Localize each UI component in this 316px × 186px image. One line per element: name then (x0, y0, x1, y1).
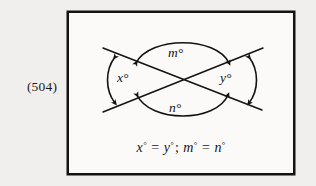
eq-x-symbol: x (137, 140, 143, 155)
eq-equals-1: = (150, 140, 160, 155)
eq-separator: ; (174, 140, 180, 155)
figure-caption-equation: x° = y°; m° = n° (68, 140, 294, 156)
eq-m-symbol: m (183, 140, 193, 155)
figure-number: (504) (18, 79, 66, 95)
figure-page: (504) x° y° m° n° x° = y°; m° = n° (0, 0, 316, 186)
eq-equals-2: = (201, 140, 211, 155)
angle-label-m: m° (168, 45, 183, 61)
angle-label-n: n° (169, 100, 181, 116)
eq-degree-4: ° (221, 140, 225, 150)
eq-degree-1: ° (143, 140, 147, 150)
eq-degree-3: ° (193, 140, 197, 150)
angle-label-x: x° (117, 70, 128, 86)
angle-label-y: y° (220, 70, 231, 86)
